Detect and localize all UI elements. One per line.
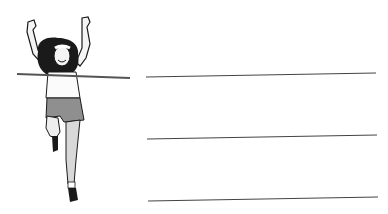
writing-line-1 bbox=[146, 73, 376, 77]
writing-lines bbox=[0, 0, 388, 214]
writing-line-2 bbox=[147, 135, 377, 139]
writing-line-3 bbox=[148, 197, 378, 201]
